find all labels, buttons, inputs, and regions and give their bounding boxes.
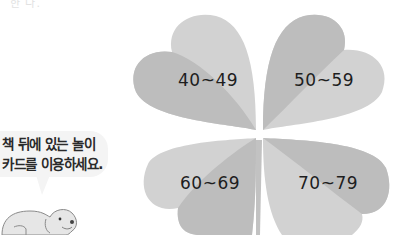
- clover-stem: [256, 140, 262, 235]
- leaf-label-bottom-left: 60~69: [180, 173, 240, 193]
- leaf-label-bottom-right: 70~79: [298, 173, 358, 193]
- leaf-label-top-left: 40~49: [178, 70, 238, 90]
- clover-diagram: [0, 0, 398, 235]
- leaf-label-top-right: 50~59: [294, 70, 354, 90]
